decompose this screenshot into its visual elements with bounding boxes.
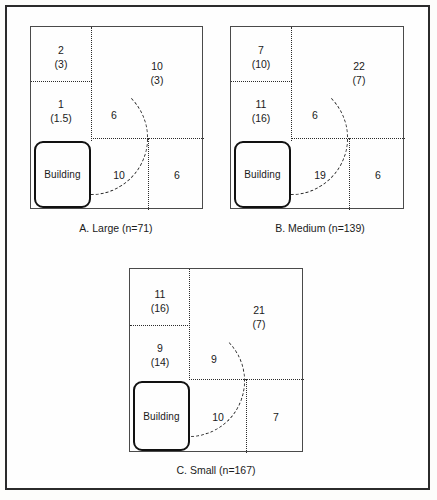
panel-a-vertical-divider-lower <box>148 138 149 210</box>
panel-b-zone-mid-left: 11 (16) <box>252 97 271 125</box>
panel-b-zone-upper-right-secondary: (7) <box>353 73 366 87</box>
panel-b-zone-lower-right: 6 <box>375 168 381 182</box>
panel-b: Building 7 (10) 11 (16) 22 (7) 6 19 6 <box>230 26 404 209</box>
panel-b-horizontal-divider-left <box>231 81 292 82</box>
panel-a-zone-mid-left-secondary: (1.5) <box>50 111 72 125</box>
panel-a-zone-upper-left: 2 (3) <box>55 43 68 71</box>
panel-b-building-label: Building <box>244 169 280 180</box>
panel-b-zone-upper-right-primary: 22 <box>353 59 366 73</box>
panel-b-zone-arc-inner-primary: 6 <box>312 108 318 122</box>
panel-c-zone-lower-right-primary: 7 <box>273 410 279 424</box>
panel-c-zone-upper-right-secondary: (7) <box>253 317 266 331</box>
figure-root: Building 2 (3) 1 (1.5) 10 (3) 6 10 6 A. … <box>0 0 437 500</box>
panel-b-building: Building <box>234 141 291 208</box>
panel-b-vertical-divider-upper <box>291 27 292 141</box>
panel-c-zone-upper-left: 11 (16) <box>151 287 170 315</box>
panel-a-caption: A. Large (n=71) <box>79 222 152 234</box>
panel-b-zone-lower-right-primary: 6 <box>375 168 381 182</box>
panel-c-horizontal-divider-left <box>130 325 190 326</box>
panel-a-zone-upper-left-primary: 2 <box>55 43 68 57</box>
panel-a-zone-upper-right-primary: 10 <box>151 59 164 73</box>
panel-c-zone-mid-left: 9 (14) <box>151 341 170 369</box>
panel-a-horizontal-divider-left <box>31 81 92 82</box>
panel-a-zone-arc-inner: 6 <box>111 108 117 122</box>
panel-a: Building 2 (3) 1 (1.5) 10 (3) 6 10 6 <box>30 26 203 209</box>
panel-c-zone-upper-right-primary: 21 <box>253 303 266 317</box>
panel-a-zone-upper-right: 10 (3) <box>151 59 164 87</box>
panel-c-zone-lower-right: 7 <box>273 410 279 424</box>
panel-b-zone-lower-middle: 19 <box>314 168 326 182</box>
panel-c-zone-upper-left-primary: 11 <box>151 287 170 301</box>
panel-b-caption: B. Medium (n=139) <box>275 222 365 234</box>
panel-a-building-label: Building <box>44 169 80 180</box>
panel-c-zone-upper-left-secondary: (16) <box>151 301 170 315</box>
panel-b-zone-upper-left-secondary: (10) <box>252 57 271 71</box>
panel-c: Building 11 (16) 9 (14) 21 (7) 9 10 7 <box>129 268 303 452</box>
panel-a-building: Building <box>34 141 91 208</box>
panel-a-zone-lower-middle-primary: 10 <box>113 168 125 182</box>
panel-b-vertical-divider-lower <box>349 138 350 210</box>
panel-b-zone-upper-left-primary: 7 <box>252 43 271 57</box>
panel-a-zone-mid-left-primary: 1 <box>50 97 72 111</box>
panel-c-zone-lower-middle: 10 <box>212 410 224 424</box>
panel-a-zone-lower-right-primary: 6 <box>174 168 180 182</box>
panel-a-zone-mid-left: 1 (1.5) <box>50 97 72 125</box>
panel-b-zone-mid-left-secondary: (16) <box>252 111 271 125</box>
panel-c-caption: C. Small (n=167) <box>176 464 255 476</box>
panel-c-zone-upper-right: 21 (7) <box>253 303 266 331</box>
panel-c-vertical-divider-lower <box>246 379 247 453</box>
panel-a-zone-lower-middle: 10 <box>113 168 125 182</box>
panel-c-zone-arc-inner: 9 <box>211 352 217 366</box>
panel-c-zone-mid-left-primary: 9 <box>151 341 170 355</box>
panel-a-zone-upper-right-secondary: (3) <box>151 73 164 87</box>
panel-a-zone-arc-inner-primary: 6 <box>111 108 117 122</box>
panel-c-zone-mid-left-secondary: (14) <box>151 355 170 369</box>
panel-b-zone-mid-left-primary: 11 <box>252 97 271 111</box>
panel-a-vertical-divider-upper <box>91 27 92 141</box>
panel-a-zone-upper-left-secondary: (3) <box>55 57 68 71</box>
panel-c-building-label: Building <box>143 411 179 422</box>
panel-b-horizontal-divider-right <box>291 138 405 139</box>
panel-c-building: Building <box>133 381 190 451</box>
panel-b-zone-arc-inner: 6 <box>312 108 318 122</box>
panel-b-zone-upper-left: 7 (10) <box>252 43 271 71</box>
panel-c-zone-arc-inner-primary: 9 <box>211 352 217 366</box>
panel-a-zone-lower-right: 6 <box>174 168 180 182</box>
panel-b-zone-upper-right: 22 (7) <box>353 59 366 87</box>
panel-c-zone-lower-middle-primary: 10 <box>212 410 224 424</box>
panel-b-zone-lower-middle-primary: 19 <box>314 168 326 182</box>
